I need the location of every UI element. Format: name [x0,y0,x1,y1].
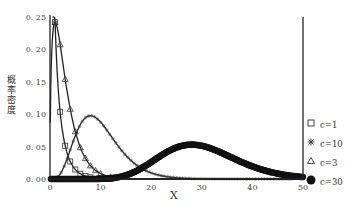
x-tick-label: 30 [197,183,207,192]
y-tick-label: 0. 05 [26,143,46,152]
x-tick-label: 10 [96,183,106,192]
legend-label: c=30 [320,177,343,187]
legend-label: c=1 [320,120,337,130]
y-tick-label: 0. 00 [26,175,46,184]
y-tick-label: 0. 20 [26,45,46,54]
legend-item: c=10 [308,139,343,150]
x-tick-label: 0 [47,183,52,192]
legend-item: c=3 [308,158,338,169]
series-c-1 [53,17,303,181]
legend-label: c=10 [320,139,343,149]
y-tick-label: 0. 10 [26,110,46,119]
x-axis-label: X [170,189,178,202]
legend-item: c=30 [307,176,343,188]
series-c-3 [50,19,302,179]
circle-marker-icon [307,176,316,185]
y-tick-label: 0. 15 [26,78,46,87]
asterisk-marker-icon [308,139,315,146]
series-c-30 [48,141,306,182]
legend-item: c=1 [308,120,337,130]
y-axis-label: 概率密度 [7,74,16,115]
x-tick-label: 50 [298,183,308,192]
axes: 010203040500. 000. 050. 100. 150. 200. 2… [26,13,308,192]
x-tick-label: 20 [146,183,156,192]
plot-area [48,17,306,182]
chart: 010203040500. 000. 050. 100. 150. 200. 2… [0,0,352,219]
legend: c=1c=10c=3c=30 [307,120,343,187]
x-tick-label: 40 [247,183,257,192]
square-marker-icon [308,120,314,126]
legend-label: c=3 [320,158,337,168]
y-tick-label: 0. 25 [26,13,46,22]
triangle-marker-icon [308,158,315,164]
